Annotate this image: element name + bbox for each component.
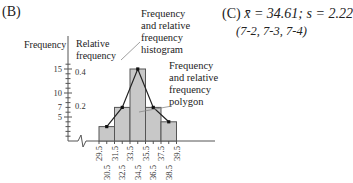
bars <box>99 69 177 141</box>
svg-text:30.5: 30.5 <box>102 165 112 180</box>
histogram-bar <box>161 122 177 141</box>
svg-text:0.2: 0.2 <box>75 101 86 111</box>
svg-text:37.5: 37.5 <box>156 146 166 161</box>
svg-text:33.5: 33.5 <box>125 146 135 161</box>
axis-break-icon <box>78 135 86 147</box>
polygon-point <box>105 125 108 128</box>
histogram-bar <box>115 107 131 141</box>
svg-text:29.5: 29.5 <box>94 146 104 161</box>
polygon-point <box>121 106 124 109</box>
histogram-bar <box>130 69 146 141</box>
svg-text:15: 15 <box>54 64 63 74</box>
svg-text:36.5: 36.5 <box>148 165 158 180</box>
svg-text:10: 10 <box>54 88 63 98</box>
svg-text:39.5: 39.5 <box>172 146 182 161</box>
svg-text:32.5: 32.5 <box>117 165 127 180</box>
histogram-bar <box>99 127 115 141</box>
svg-text:35.5: 35.5 <box>141 146 151 161</box>
x-tick-labels: 29.531.533.535.537.539.530.532.534.536.5… <box>94 141 182 180</box>
svg-text:38.5: 38.5 <box>164 165 174 180</box>
histogram-leader-line <box>121 42 140 60</box>
svg-text:5: 5 <box>58 112 62 122</box>
polygon-point <box>136 67 139 70</box>
polygon-point <box>152 106 155 109</box>
polygon-point <box>167 120 170 123</box>
svg-text:7: 7 <box>58 102 62 112</box>
svg-text:0.4: 0.4 <box>75 67 86 77</box>
svg-text:34.5: 34.5 <box>133 165 143 180</box>
svg-text:31.5: 31.5 <box>110 146 120 161</box>
